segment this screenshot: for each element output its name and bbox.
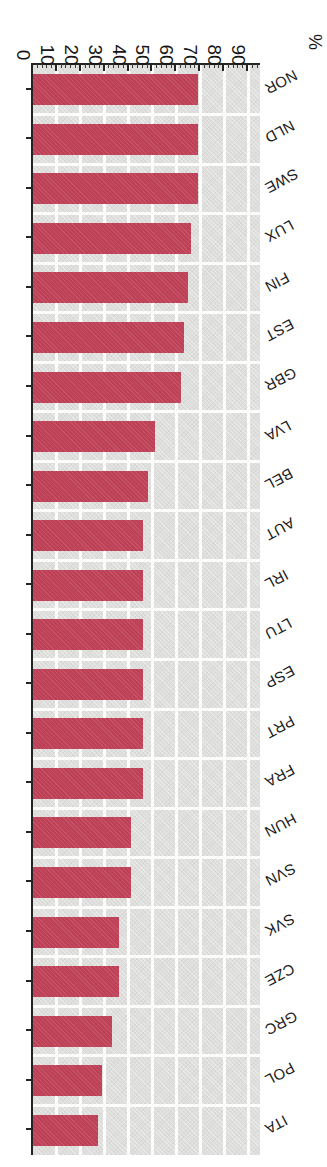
bar: [33, 471, 148, 502]
bar: [33, 718, 143, 749]
tick-label-40: 40: [110, 44, 129, 65]
category-label-ltu: LTU: [263, 615, 294, 641]
gridline-horizontal: [33, 361, 260, 364]
gridline-horizontal: [33, 559, 260, 562]
category-tick: [26, 1079, 31, 1081]
axis-title-percent: %: [306, 34, 324, 50]
category-tick: [26, 633, 31, 635]
category-tick: [26, 385, 31, 387]
category-label-ita: ITA: [263, 1113, 290, 1136]
gridline-horizontal: [33, 113, 260, 116]
category-tick: [26, 930, 31, 932]
gridline-horizontal: [33, 906, 260, 909]
category-tick: [26, 881, 31, 883]
category-tick: [26, 236, 31, 238]
category-tick: [26, 831, 31, 833]
category-label-fin: FIN: [263, 270, 292, 294]
bar: [33, 768, 143, 799]
bar: [33, 1016, 112, 1047]
category-tick: [26, 1029, 31, 1031]
gridline-horizontal: [33, 807, 260, 810]
bar: [33, 124, 198, 155]
category-tick: [26, 781, 31, 783]
tick-label-30: 30: [86, 44, 105, 65]
bar: [33, 173, 198, 204]
tick-label-50: 50: [133, 44, 152, 65]
category-tick: [26, 1128, 31, 1130]
bar: [33, 520, 143, 551]
category-label-swe: SWE: [263, 166, 301, 195]
gridline-horizontal: [33, 757, 260, 760]
category-label-fra: FRA: [263, 763, 297, 790]
category-label-bel: BEL: [263, 466, 295, 492]
category-label-svk: SVK: [263, 911, 297, 938]
category-label-aut: AUT: [263, 515, 297, 542]
bar: [33, 1115, 98, 1146]
gridline-horizontal: [33, 708, 260, 711]
bar: [33, 223, 191, 254]
category-label-pol: POL: [263, 1060, 297, 1087]
bar: [33, 570, 143, 601]
tick-label-20: 20: [62, 44, 81, 65]
bar: [33, 1065, 102, 1096]
tick-minor: [257, 64, 258, 68]
gridline-horizontal: [33, 1054, 260, 1057]
category-label-lux: LUX: [263, 218, 296, 244]
gridline-horizontal: [33, 609, 260, 612]
bar: [33, 966, 119, 997]
category-tick: [26, 137, 31, 139]
category-label-est: EST: [263, 317, 296, 343]
category-label-prt: PRT: [263, 713, 297, 740]
bar: [33, 917, 119, 948]
gridline-horizontal: [33, 955, 260, 958]
gridline-horizontal: [33, 509, 260, 512]
category-tick: [26, 583, 31, 585]
bar: [33, 817, 131, 848]
category-tick: [26, 187, 31, 189]
category-tick: [26, 88, 31, 90]
tick-label-60: 60: [157, 44, 176, 65]
category-tick: [26, 980, 31, 982]
category-tick: [26, 682, 31, 684]
bar: [33, 619, 143, 650]
gridline-horizontal: [33, 1104, 260, 1107]
gridline-horizontal: [33, 311, 260, 314]
bar: [33, 372, 181, 403]
gridline-horizontal: [33, 410, 260, 413]
category-label-irl: IRL: [263, 568, 291, 592]
tick-label-10: 10: [38, 44, 57, 65]
tick-label-0: 0: [14, 50, 33, 61]
bar: [33, 74, 198, 105]
tick-minor: [252, 64, 253, 68]
category-label-gbr: GBR: [263, 365, 299, 393]
category-tick: [26, 286, 31, 288]
category-tick: [26, 534, 31, 536]
gridline-horizontal: [33, 212, 260, 215]
category-label-nor: NOR: [263, 68, 300, 96]
bar: [33, 867, 131, 898]
gridline-horizontal: [33, 163, 260, 166]
category-tick: [26, 336, 31, 338]
bar: [33, 669, 143, 700]
tick-major: [31, 64, 33, 71]
tick-label-70: 70: [181, 44, 200, 65]
plot-area: [33, 65, 260, 1155]
category-label-cze: CZE: [263, 961, 297, 988]
gridline-horizontal: [33, 460, 260, 463]
gridline-horizontal: [33, 262, 260, 265]
tick-label-90: 90: [229, 44, 248, 65]
gridline-horizontal: [33, 856, 260, 859]
category-tick: [26, 732, 31, 734]
gridline-horizontal: [33, 658, 260, 661]
category-tick: [26, 484, 31, 486]
gridline-horizontal: [33, 1005, 260, 1008]
bar: [33, 322, 184, 353]
category-label-nld: NLD: [263, 119, 297, 146]
rotated-figure: NORNLDSWELUXFINESTGBRLVABELAUTIRLLTUESPP…: [0, 0, 327, 1167]
bar: [33, 421, 155, 452]
category-label-esp: ESP: [263, 664, 297, 691]
category-label-grc: GRC: [263, 1009, 300, 1037]
bar: [33, 272, 188, 303]
category-label-hun: HUN: [263, 811, 299, 839]
category-label-lva: LVA: [263, 418, 293, 443]
